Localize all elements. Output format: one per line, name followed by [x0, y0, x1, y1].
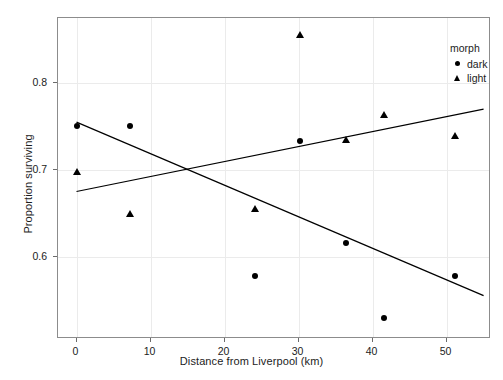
y-tick-label: 0.7	[32, 163, 47, 175]
x-tick-mark	[224, 338, 225, 342]
legend-title: morph	[450, 42, 490, 54]
regression-line-light	[77, 109, 484, 191]
regression-lines	[58, 18, 490, 338]
data-point-dark	[252, 273, 258, 279]
x-tick-mark	[372, 338, 373, 342]
data-point-dark	[74, 123, 80, 129]
data-point-light	[451, 132, 459, 139]
regression-line-dark	[77, 122, 484, 296]
x-tick-mark	[298, 338, 299, 342]
data-point-light	[126, 210, 134, 217]
scatter-chart: morph dark light 01020304050 0.60.70.8 D…	[0, 0, 503, 380]
y-tick-mark	[53, 82, 57, 83]
plot-panel: morph dark light	[57, 17, 490, 338]
y-tick-mark	[53, 256, 57, 257]
legend-label-dark: dark	[467, 58, 487, 70]
data-point-light	[73, 168, 81, 175]
data-point-dark	[343, 240, 349, 246]
y-axis-title: Proportion surviving	[22, 84, 34, 284]
x-tick-mark	[76, 338, 77, 342]
x-axis-title: Distance from Liverpool (km)	[0, 355, 503, 367]
y-tick-label: 0.6	[32, 250, 47, 262]
legend-label-light: light	[467, 72, 486, 84]
x-tick-mark	[150, 338, 151, 342]
data-point-light	[296, 31, 304, 38]
legend: morph dark light	[450, 42, 490, 85]
triangle-marker-icon	[450, 75, 464, 81]
y-tick-mark	[53, 169, 57, 170]
circle-marker-icon	[450, 61, 464, 66]
data-point-light	[380, 111, 388, 118]
data-point-light	[251, 205, 259, 212]
y-tick-label: 0.8	[32, 76, 47, 88]
legend-item-light[interactable]: light	[450, 71, 490, 84]
x-tick-mark	[446, 338, 447, 342]
data-point-light	[342, 136, 350, 143]
data-point-dark	[381, 315, 387, 321]
legend-item-dark[interactable]: dark	[450, 57, 490, 70]
